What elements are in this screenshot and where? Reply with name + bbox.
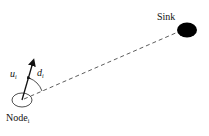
node-subscript: i — [28, 118, 30, 124]
velocity-subscript: i — [15, 74, 17, 80]
angle-label: di — [37, 68, 44, 79]
angle-subscript: i — [42, 73, 44, 79]
sink-label: Sink — [157, 12, 175, 22]
node-label: Nodei — [6, 113, 29, 124]
sink-circle — [177, 23, 197, 38]
angle-arc-icon — [29, 78, 42, 91]
node-name: Node — [6, 112, 28, 123]
dashed-link-line — [24, 32, 178, 99]
diagram-canvas — [0, 0, 209, 136]
velocity-label: ui — [10, 69, 17, 80]
